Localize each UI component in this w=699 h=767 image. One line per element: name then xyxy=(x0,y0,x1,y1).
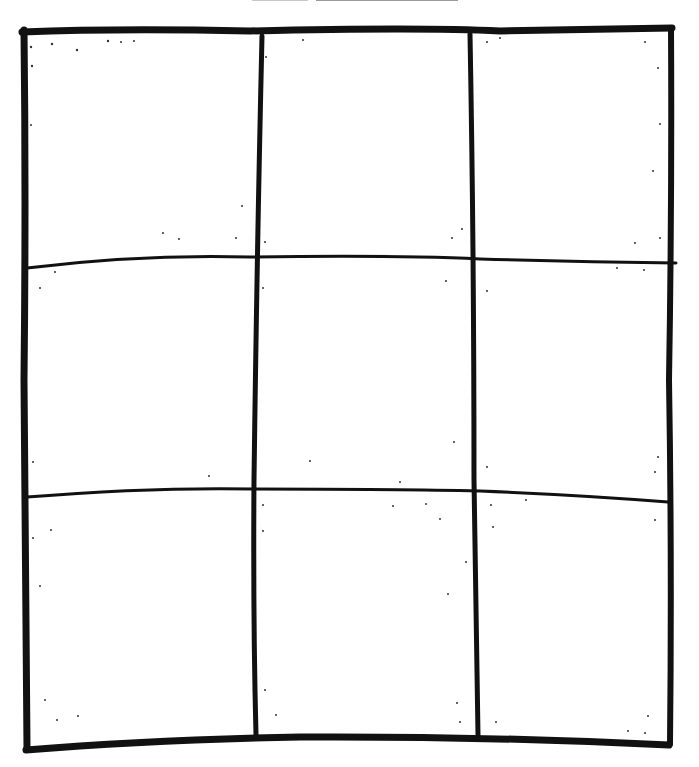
frame-right xyxy=(669,28,671,744)
vline-1 xyxy=(254,36,262,735)
hline-2 xyxy=(27,489,668,502)
speckles xyxy=(30,37,661,734)
frame-left xyxy=(24,30,27,748)
grid-drawing xyxy=(0,0,699,767)
frame-bottom xyxy=(26,737,669,750)
vline-2 xyxy=(470,34,478,735)
hline-1 xyxy=(27,256,676,268)
frame-top xyxy=(22,28,672,32)
